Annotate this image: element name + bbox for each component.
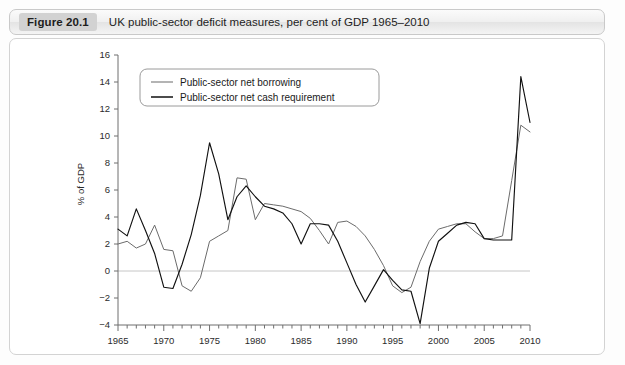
y-axis-tick-label: 10 [99, 130, 110, 141]
x-axis-tick-label: 2000 [428, 335, 449, 346]
y-axis-tick-label: 8 [105, 157, 110, 168]
y-axis-tick-label: 2 [105, 238, 110, 249]
y-axis-tick-label: 14 [99, 76, 110, 87]
y-axis-tick-label: 12 [99, 103, 110, 114]
x-axis-tick-label: 1965 [107, 335, 128, 346]
x-axis-tick-label: 2010 [519, 335, 540, 346]
y-axis-tick-label: −4 [99, 319, 110, 330]
series-line-psnb [118, 125, 530, 292]
x-axis-tick-label: 2005 [474, 335, 495, 346]
series-line-ncr [118, 77, 530, 324]
legend-label-ncr: Public-sector net cash requirement [180, 92, 335, 103]
figure-root: Figure 20.1 UK public-sector deficit mea… [0, 0, 625, 365]
x-axis-tick-label: 1975 [199, 335, 220, 346]
y-axis-title: % of GDP [75, 163, 86, 205]
figure-caption-title: UK public-sector deficit measures, per c… [109, 16, 430, 28]
y-axis-tick-label: 4 [105, 211, 110, 222]
chart-panel: 1614121086420−2−4% of GDP196519701975198… [9, 38, 605, 355]
x-axis-tick-label: 1980 [245, 335, 266, 346]
y-axis-tick-label: 0 [105, 265, 110, 276]
x-axis-tick-label: 1990 [336, 335, 357, 346]
figure-number-tag: Figure 20.1 [19, 13, 97, 31]
y-axis-tick-label: 16 [99, 49, 110, 60]
y-axis-tick-label: 6 [105, 184, 110, 195]
figure-caption-bar: Figure 20.1 UK public-sector deficit mea… [9, 9, 605, 35]
x-axis-tick-label: 1985 [291, 335, 312, 346]
x-axis-tick-label: 1970 [153, 335, 174, 346]
y-axis-tick-label: −2 [99, 292, 110, 303]
x-axis-tick-label: 1995 [382, 335, 403, 346]
line-chart: 1614121086420−2−4% of GDP196519701975198… [10, 39, 605, 355]
legend-label-psnb: Public-sector net borrowing [180, 77, 301, 88]
